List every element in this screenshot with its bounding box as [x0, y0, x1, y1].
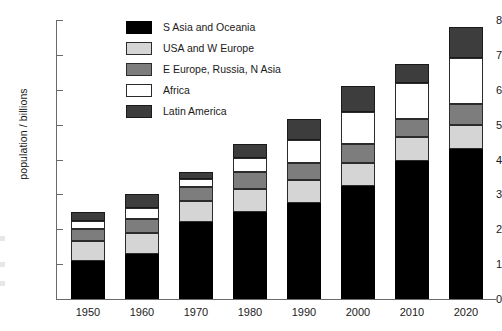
bar-segment	[71, 212, 105, 221]
bar-segment	[395, 161, 429, 299]
y-axis-tick	[57, 20, 63, 21]
x-axis-tick-label: 2020	[441, 307, 491, 318]
edge-artifact	[0, 262, 5, 267]
bar-segment	[179, 222, 213, 299]
bar-segment	[287, 140, 321, 163]
bar-segment	[125, 219, 159, 233]
y-axis-tick	[57, 90, 63, 91]
bar-segment	[341, 186, 375, 299]
legend-label: S Asia and Oceania	[163, 22, 255, 33]
bar-segment	[395, 83, 429, 120]
bar-segment	[341, 144, 375, 163]
legend-swatch	[126, 21, 152, 34]
y-axis-tick	[57, 160, 63, 161]
bar-segment	[179, 201, 213, 222]
x-axis-tick-label: 1980	[225, 307, 275, 318]
bar-2020	[449, 27, 483, 299]
bar-1960	[125, 194, 159, 299]
bar-segment	[449, 58, 483, 103]
bar-1950	[71, 212, 105, 299]
y-axis-tick	[57, 125, 63, 126]
bar-2000	[341, 86, 375, 299]
bar-2010	[395, 64, 429, 299]
bar-segment	[233, 158, 267, 172]
x-axis-tick-label: 1990	[279, 307, 329, 318]
bar-segment	[71, 261, 105, 299]
bar-segment	[341, 86, 375, 112]
y-axis-tick	[57, 229, 63, 230]
bar-segment	[71, 229, 105, 241]
bar-segment	[341, 112, 375, 143]
x-axis-tick-label: 2000	[333, 307, 383, 318]
legend-label: Latin America	[163, 106, 227, 117]
bar-segment	[395, 137, 429, 161]
legend-item-2: E Europe, Russia, N Asia	[126, 59, 281, 80]
bar-segment	[233, 144, 267, 158]
bar-1970	[179, 172, 213, 299]
x-axis-tick-label: 1950	[63, 307, 113, 318]
legend-label: Africa	[163, 85, 190, 96]
legend-swatch	[126, 63, 152, 76]
bar-segment	[449, 125, 483, 149]
bar-segment	[71, 241, 105, 260]
legend-swatch	[126, 84, 152, 97]
bar-1980	[233, 144, 267, 299]
x-axis-tick-label: 1960	[117, 307, 167, 318]
bar-segment	[233, 172, 267, 189]
bar-segment	[179, 172, 213, 179]
bar-segment	[395, 64, 429, 83]
edge-artifact	[0, 281, 5, 286]
x-axis-tick-label: 2010	[387, 307, 437, 318]
bar-segment	[125, 254, 159, 299]
legend-item-0: S Asia and Oceania	[126, 17, 281, 38]
y-axis-label: population / billions	[17, 79, 29, 189]
legend-swatch	[126, 42, 152, 55]
bar-segment	[125, 233, 159, 254]
bar-segment	[287, 119, 321, 140]
legend-item-1: USA and W Europe	[126, 38, 281, 59]
x-axis-tick-label: 1970	[171, 307, 221, 318]
chart-legend: S Asia and OceaniaUSA and W EuropeE Euro…	[126, 17, 281, 122]
stacked-bar-chart: population / billions 876543210 19501960…	[0, 0, 502, 331]
bar-segment	[179, 179, 213, 188]
bar-segment	[287, 203, 321, 299]
y-axis-tick	[57, 264, 63, 265]
y-axis-tick-label: 8	[456, 15, 502, 26]
bar-segment	[233, 212, 267, 299]
legend-item-4: Latin America	[126, 101, 281, 122]
legend-label: USA and W Europe	[163, 43, 254, 54]
legend-label: E Europe, Russia, N Asia	[163, 64, 281, 75]
y-axis-tick	[57, 194, 63, 195]
bar-segment	[125, 194, 159, 208]
bar-segment	[449, 149, 483, 299]
bar-segment	[179, 187, 213, 201]
legend-item-3: Africa	[126, 80, 281, 101]
legend-swatch	[126, 105, 152, 118]
edge-artifact	[0, 236, 5, 241]
bar-segment	[233, 189, 267, 212]
y-axis-tick	[57, 55, 63, 56]
bar-segment	[287, 180, 321, 203]
bar-segment	[449, 27, 483, 58]
bar-segment	[287, 163, 321, 180]
bar-segment	[125, 208, 159, 218]
bar-segment	[71, 221, 105, 230]
x-axis-line	[56, 299, 496, 300]
bar-segment	[341, 163, 375, 186]
bar-segment	[395, 119, 429, 136]
y-axis-tick	[57, 299, 63, 300]
bar-segment	[449, 104, 483, 125]
bar-1990	[287, 119, 321, 299]
